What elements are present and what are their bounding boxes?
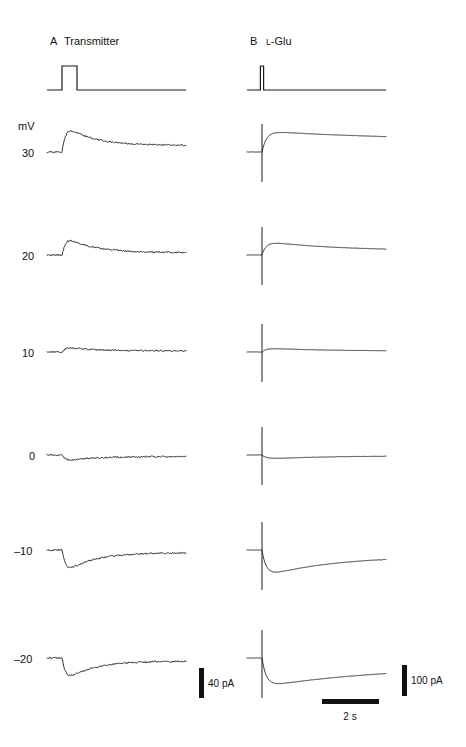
- panel-a-title: Transmitter: [64, 35, 120, 47]
- voltage-label-30: 30: [22, 147, 34, 159]
- scalebar-time: [322, 699, 379, 704]
- panel-b-letter: B: [250, 35, 257, 47]
- panel-a-letter: A: [50, 35, 58, 47]
- scalebar-right-current: [402, 665, 407, 696]
- scalebar-right-current-label: 100 pA: [411, 675, 443, 686]
- figure-background: [0, 0, 466, 747]
- scalebar-left-current: [199, 668, 204, 698]
- voltage-label-minus-10: –10: [14, 545, 32, 557]
- scalebar-time-label: 2 s: [343, 711, 356, 722]
- panel-b-title-rest: -Glu: [271, 35, 292, 47]
- voltage-unit-label: mV: [18, 120, 35, 132]
- scalebar-left-current-label: 40 pA: [208, 678, 234, 689]
- electrophysiology-figure: A Transmitter B L-Glu mV 30 20 10 0 –10 …: [0, 0, 466, 747]
- panel-b-title: L-Glu: [266, 35, 292, 47]
- voltage-label-10: 10: [22, 347, 34, 359]
- figure-root: A Transmitter B L-Glu mV 30 20 10 0 –10 …: [0, 0, 466, 747]
- voltage-label-0: 0: [29, 450, 35, 462]
- voltage-label-minus-20: –20: [14, 653, 32, 665]
- voltage-label-20: 20: [22, 250, 34, 262]
